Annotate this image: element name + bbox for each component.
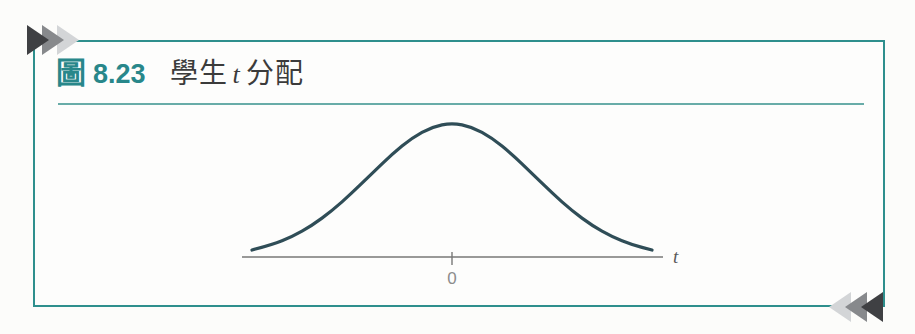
page: 圖 8.23 學生t分配 0 t bbox=[0, 0, 915, 334]
bottom-right-arrows-decoration bbox=[824, 290, 888, 324]
title-divider-rule bbox=[58, 103, 864, 105]
caption-text-prefix: 學生 bbox=[170, 58, 228, 89]
figure-title: 圖 8.23 學生t分配 bbox=[56, 58, 304, 88]
t-distribution-chart: 0 t bbox=[235, 108, 700, 293]
figure-label-badge: 圖 bbox=[56, 58, 86, 88]
t-density-curve bbox=[252, 124, 652, 250]
x-tick-label-0: 0 bbox=[447, 269, 456, 288]
figure-number: 8.23 bbox=[93, 61, 146, 88]
caption-variable-t: t bbox=[233, 60, 241, 89]
top-left-arrows-decoration bbox=[26, 23, 90, 57]
x-axis-variable-label: t bbox=[673, 246, 679, 267]
caption-text-suffix: 分配 bbox=[246, 58, 304, 89]
figure-caption: 學生t分配 bbox=[170, 60, 304, 88]
